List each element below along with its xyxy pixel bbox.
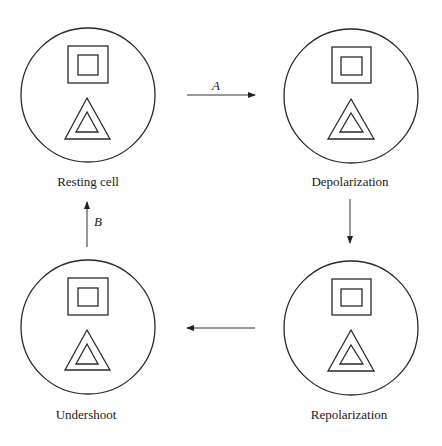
arrow-undershoot-to-resting: B bbox=[87, 202, 102, 247]
cell-membrane-circle bbox=[284, 261, 418, 395]
nested-triangle-icon bbox=[328, 330, 374, 371]
cell-membrane-circle bbox=[21, 260, 155, 394]
cell-depolarization: Depolarization bbox=[284, 29, 418, 189]
nested-triangle-icon bbox=[328, 99, 374, 139]
cell-membrane-circle bbox=[284, 29, 418, 163]
action-potential-cycle-diagram: Resting cell Depolarization Undershoot bbox=[0, 0, 442, 446]
nested-square-icon bbox=[68, 278, 108, 315]
arrow-label-a: A bbox=[211, 78, 220, 93]
nested-square-icon bbox=[332, 47, 371, 83]
cell-undershoot: Undershoot bbox=[21, 260, 155, 422]
nested-triangle-icon bbox=[65, 98, 110, 139]
cell-label-repolarization: Repolarization bbox=[311, 407, 388, 422]
nested-square-icon bbox=[68, 46, 108, 83]
nested-square-icon bbox=[332, 279, 371, 315]
arrow-resting-to-depolarization: A bbox=[187, 78, 255, 95]
arrow-label-b: B bbox=[94, 214, 102, 229]
cell-repolarization: Repolarization bbox=[284, 261, 418, 422]
cell-label-undershoot: Undershoot bbox=[56, 407, 117, 422]
cell-label-resting: Resting cell bbox=[57, 174, 119, 189]
cell-resting: Resting cell bbox=[21, 28, 155, 189]
cell-membrane-circle bbox=[21, 28, 155, 162]
nested-triangle-icon bbox=[65, 330, 110, 370]
cell-label-depolarization: Depolarization bbox=[311, 174, 389, 189]
